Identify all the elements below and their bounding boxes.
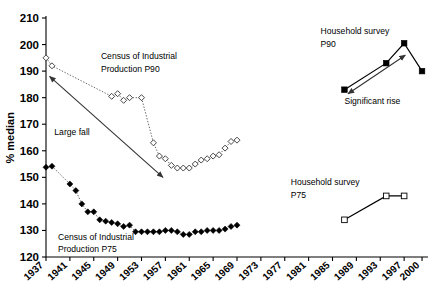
data-point bbox=[150, 140, 156, 146]
data-point bbox=[419, 68, 425, 74]
y-axis-title: % median bbox=[4, 112, 16, 164]
y-tick-label: 150 bbox=[20, 171, 39, 183]
series-line-2 bbox=[344, 43, 422, 89]
data-point bbox=[103, 218, 109, 224]
data-point bbox=[139, 229, 145, 235]
x-tick-label: 1969 bbox=[212, 259, 236, 282]
data-point bbox=[144, 229, 150, 235]
data-point bbox=[228, 138, 234, 144]
significant-rise-label: Significant rise bbox=[344, 96, 400, 106]
data-point bbox=[234, 137, 240, 143]
chart-plot: 120130140150160170180190200210% median19… bbox=[0, 0, 435, 296]
x-tick-label: 1961 bbox=[165, 259, 189, 282]
data-point bbox=[180, 231, 186, 237]
data-point bbox=[85, 209, 91, 215]
data-point bbox=[174, 165, 180, 171]
x-tick-label: 1985 bbox=[308, 259, 332, 282]
data-point bbox=[192, 229, 198, 235]
large-fall-label: Large fall bbox=[54, 127, 89, 137]
series-line-3 bbox=[344, 196, 404, 220]
data-point bbox=[91, 209, 97, 215]
x-tick-label: 1993 bbox=[356, 259, 380, 282]
chart-container: 120130140150160170180190200210% median19… bbox=[0, 0, 435, 296]
data-point bbox=[156, 229, 162, 235]
data-point bbox=[109, 219, 115, 225]
x-tick-label: 1973 bbox=[236, 259, 260, 282]
data-point bbox=[198, 157, 204, 163]
data-point bbox=[115, 91, 121, 97]
series-line-1 bbox=[46, 166, 237, 234]
y-tick-label: 210 bbox=[20, 12, 39, 24]
x-tick-label: 1981 bbox=[284, 259, 308, 282]
data-point bbox=[222, 145, 228, 151]
y-tick-label: 190 bbox=[20, 65, 39, 77]
x-tick-label: 1965 bbox=[189, 259, 213, 282]
data-point bbox=[115, 221, 121, 227]
y-tick-label: 140 bbox=[20, 198, 39, 210]
x-tick-label: 2000 bbox=[397, 259, 421, 282]
data-point bbox=[204, 227, 210, 233]
data-point bbox=[186, 231, 192, 237]
household-p90-label2: P90 bbox=[321, 39, 337, 49]
data-point bbox=[186, 165, 192, 171]
data-point bbox=[210, 153, 216, 159]
census-p75-label: Census of Industrial bbox=[58, 232, 134, 242]
x-tick-label: 1953 bbox=[117, 259, 141, 282]
data-point bbox=[204, 156, 210, 162]
y-tick-label: 160 bbox=[20, 145, 39, 157]
data-point bbox=[43, 55, 49, 61]
y-tick-label: 180 bbox=[20, 92, 39, 104]
data-point bbox=[210, 227, 216, 233]
data-point bbox=[234, 222, 240, 228]
x-tick-label: 1949 bbox=[93, 259, 117, 282]
household-p75-label: Household survey bbox=[291, 177, 360, 187]
data-point bbox=[228, 223, 234, 229]
census-p75-label2: Production P75 bbox=[58, 244, 117, 254]
census-p90-label: Census of Industrial bbox=[101, 51, 177, 61]
data-point bbox=[43, 164, 49, 170]
y-tick-label: 130 bbox=[20, 224, 39, 236]
data-point bbox=[162, 227, 168, 233]
data-point bbox=[121, 223, 127, 229]
data-point bbox=[216, 152, 222, 158]
data-point bbox=[168, 162, 174, 168]
data-point bbox=[156, 153, 162, 159]
data-point bbox=[383, 60, 389, 66]
data-point bbox=[127, 95, 133, 101]
y-tick-label: 200 bbox=[20, 39, 39, 51]
data-point bbox=[139, 95, 145, 101]
data-point bbox=[198, 229, 204, 235]
data-point bbox=[192, 161, 198, 167]
data-point bbox=[174, 229, 180, 235]
x-tick-label: 1989 bbox=[332, 259, 356, 282]
x-tick-label: 1977 bbox=[260, 259, 284, 282]
household-p90-label: Household survey bbox=[321, 26, 390, 36]
data-point bbox=[342, 87, 348, 93]
data-point bbox=[150, 229, 156, 235]
data-point bbox=[222, 226, 228, 232]
data-point bbox=[383, 193, 389, 199]
data-point bbox=[121, 97, 127, 103]
data-point bbox=[180, 165, 186, 171]
data-point bbox=[162, 156, 168, 162]
data-point bbox=[97, 217, 103, 223]
census-p90-label2: Production P90 bbox=[101, 64, 160, 74]
significant-rise-arrow bbox=[348, 55, 405, 94]
x-tick-label: 1941 bbox=[45, 259, 69, 282]
household-p75-label2: P75 bbox=[291, 190, 307, 200]
data-point bbox=[109, 93, 115, 99]
x-tick-label: 1957 bbox=[141, 259, 165, 282]
data-point bbox=[168, 227, 174, 233]
x-tick-label: 1945 bbox=[69, 259, 93, 282]
data-point bbox=[401, 40, 407, 46]
data-point bbox=[342, 217, 348, 223]
data-point bbox=[401, 193, 407, 199]
y-tick-label: 170 bbox=[20, 118, 39, 130]
data-point bbox=[216, 227, 222, 233]
